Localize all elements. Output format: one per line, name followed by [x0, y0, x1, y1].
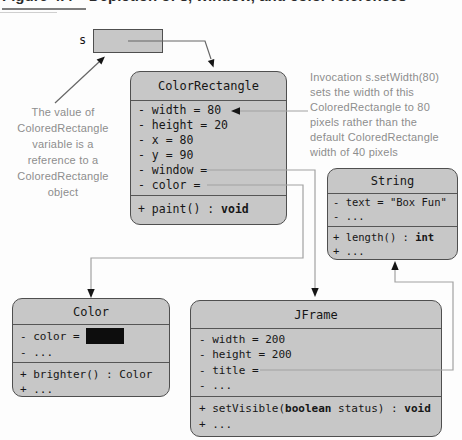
- caption-underline-secondary: [0, 12, 57, 13]
- attribute-row: - y = 90: [138, 148, 286, 163]
- class-box-color: Color - color = - ... + brighter() : Col…: [12, 298, 170, 397]
- method-row: + ...: [20, 382, 169, 397]
- attribute-row: - title =: [199, 363, 441, 378]
- note-line: object: [2, 184, 124, 200]
- attribute-row: - width = 200: [199, 332, 441, 347]
- attribute-row: - width = 80: [138, 103, 286, 118]
- attributes-compartment: - width = 200 - height = 200 - title = -…: [191, 329, 441, 397]
- class-title: JFrame: [191, 301, 441, 329]
- left-annotation-arrow: [55, 57, 105, 104]
- note-line: Invocation s.setWidth(80): [310, 70, 462, 85]
- attribute-row: - ...: [333, 210, 457, 224]
- black-color-swatch: [86, 328, 124, 344]
- color-attribute-row: - color =: [20, 327, 169, 346]
- method-row: + setVisible(boolean status) : void: [199, 401, 441, 417]
- class-title: ColorRectangle: [131, 72, 286, 101]
- variable-s-label: s: [79, 33, 86, 47]
- caption-underline: [2, 8, 86, 10]
- method-row: + ...: [333, 244, 457, 259]
- note-line: The value of: [2, 104, 124, 120]
- attribute-row: - height = 20: [138, 118, 286, 133]
- attribute-row: - color =: [138, 178, 286, 193]
- caption-title: Depiction of s, window, and color refere…: [89, 0, 407, 4]
- method-row: + paint() : void: [138, 201, 286, 217]
- attribute-row: - ...: [199, 378, 441, 393]
- param-type: boolean: [285, 402, 331, 415]
- attribute-row: - ...: [20, 346, 169, 360]
- methods-compartment: + brighter() : Color + ...: [13, 363, 169, 397]
- method-row: + length() : int: [333, 230, 457, 245]
- left-annotation: The value of ColoredRectangle variable i…: [2, 104, 124, 200]
- method-row: + brighter() : Color: [20, 367, 169, 382]
- attributes-compartment: - color = - ...: [13, 325, 169, 363]
- note-line: width of 40 pixels: [310, 145, 462, 160]
- class-box-string: String - text = "Box Fun" - ... + length…: [327, 168, 458, 260]
- return-type: void: [221, 202, 249, 216]
- right-annotation: Invocation s.setWidth(80) sets the width…: [310, 70, 462, 160]
- figure-diagram: Figure 4.4Depiction of s, window, and co…: [0, 0, 462, 440]
- class-box-jframe: JFrame - width = 200 - height = 200 - ti…: [190, 300, 442, 437]
- method-row: + ...: [199, 417, 441, 433]
- caption-number: Figure 4.4: [2, 0, 73, 4]
- class-box-colorrectangle: ColorRectangle - width = 80 - height = 2…: [130, 71, 287, 225]
- methods-compartment: + paint() : void: [131, 196, 286, 224]
- attribute-row: - x = 80: [138, 133, 286, 148]
- attribute-row: - window =: [138, 163, 286, 178]
- note-line: default ColoredRectangle: [310, 130, 462, 145]
- note-line: variable is a: [2, 136, 124, 152]
- note-line: ColoredRectangle to 80: [310, 100, 462, 115]
- note-line: ColoredRectangle: [2, 120, 124, 136]
- figure-caption-text: Figure 4.4Depiction of s, window, and co…: [2, 0, 407, 4]
- methods-compartment: + setVisible(boolean status) : void + ..…: [191, 397, 441, 436]
- return-type: void: [404, 402, 431, 415]
- note-line: ColoredRectangle: [2, 168, 124, 184]
- class-title: Color: [13, 299, 169, 325]
- attribute-row: - height = 200: [199, 347, 441, 362]
- note-line: sets the width of this: [310, 85, 462, 100]
- attribute-row: - text = "Box Fun": [333, 196, 457, 210]
- variable-s-cell: [93, 29, 163, 53]
- note-line: pixels rather than the: [310, 115, 462, 130]
- return-type: int: [415, 231, 434, 243]
- note-line: reference to a: [2, 152, 124, 168]
- attributes-compartment: - width = 80 - height = 20 - x = 80 - y …: [131, 101, 286, 196]
- class-title: String: [328, 169, 457, 194]
- methods-compartment: + length() : int + ...: [328, 227, 457, 259]
- attributes-compartment: - text = "Box Fun" - ...: [328, 194, 457, 227]
